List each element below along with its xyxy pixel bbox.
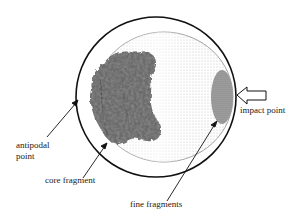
impact-arrow-icon: [237, 87, 266, 104]
antipodal-point-pointer: [47, 100, 78, 137]
core-fragment-rock: [91, 51, 161, 144]
antipodal-point-label-line2: point: [16, 151, 35, 162]
core-fragment-label: core fragment: [45, 175, 95, 186]
antipodal-point-label-line1: antipodal: [16, 140, 50, 151]
impact-point-label: impact point: [240, 105, 285, 116]
fine-fragments-oval: [211, 70, 233, 124]
fine-fragments-label: fine fragments: [130, 199, 182, 210]
